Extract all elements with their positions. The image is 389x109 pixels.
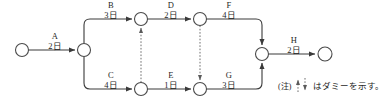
- arrow-diagram: A 2日 B 3日 D 2日 F 4日 C 4日 E 1日 G 3日 H 2日 …: [0, 0, 389, 109]
- activity-name-d: D: [164, 1, 177, 10]
- activity-name-h: H: [287, 36, 300, 45]
- activity-label-g: G 3日: [222, 71, 235, 90]
- activity-duration-a: 2日: [48, 42, 61, 51]
- activity-label-h: H 2日: [287, 36, 300, 55]
- node-c-end: [135, 83, 148, 96]
- activity-label-a: A 2日: [48, 32, 61, 51]
- activity-name-f: F: [222, 1, 235, 10]
- activity-duration-d: 2日: [164, 11, 177, 20]
- activity-name-e: E: [164, 71, 177, 80]
- activity-name-a: A: [48, 32, 61, 41]
- activity-label-e: E 1日: [164, 71, 177, 90]
- activity-duration-e: 1日: [164, 81, 177, 90]
- activity-edge-f: [207, 19, 263, 45]
- activity-name-g: G: [222, 71, 235, 80]
- activity-label-f: F 4日: [222, 1, 235, 20]
- legend-note: (注) はダミーを示す。: [278, 76, 384, 94]
- activity-name-b: B: [104, 1, 117, 10]
- activity-duration-f: 4日: [222, 11, 235, 20]
- node-e-end: [194, 83, 207, 96]
- activity-label-d: D 2日: [164, 1, 177, 20]
- legend-text: はダミーを示す。: [313, 79, 384, 91]
- activity-edge-b: [84, 19, 132, 44]
- legend-note-marker: (注): [278, 80, 291, 91]
- activity-label-c: C 4日: [104, 71, 117, 90]
- node-merge: [256, 48, 269, 61]
- activity-duration-b: 3日: [104, 11, 117, 20]
- node-b-end: [135, 13, 148, 26]
- activity-name-c: C: [104, 71, 117, 80]
- node-d-end: [194, 13, 207, 26]
- node-end: [318, 47, 332, 61]
- activity-duration-c: 4日: [104, 81, 117, 90]
- node-start: [16, 44, 29, 57]
- dummy-arrow-legend-icon: [294, 76, 310, 94]
- node-split: [78, 44, 91, 57]
- activity-label-b: B 3日: [104, 1, 117, 20]
- activity-duration-g: 3日: [222, 81, 235, 90]
- activity-duration-h: 2日: [287, 46, 300, 55]
